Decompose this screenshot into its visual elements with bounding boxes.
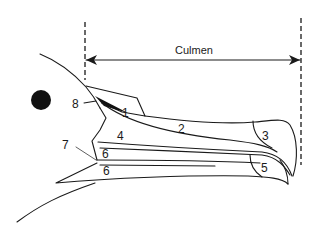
label-7: 7 xyxy=(62,138,69,152)
leader-8 xyxy=(84,101,96,103)
upper-bill-top xyxy=(145,116,296,176)
label-4: 4 xyxy=(117,129,124,143)
plate-6-upper-band xyxy=(97,160,260,163)
label-2: 2 xyxy=(178,122,185,136)
label-6-lower: 6 xyxy=(103,164,110,178)
label-3: 3 xyxy=(262,129,269,143)
label-6-upper: 6 xyxy=(102,147,109,161)
culmen-arrow xyxy=(86,55,300,65)
throat-outline xyxy=(17,183,95,222)
label-5: 5 xyxy=(261,161,268,175)
bill-diagram: Culmen 1 2 3 4 5 6 6 7 8 xyxy=(0,0,314,230)
label-8: 8 xyxy=(72,97,79,111)
eye-icon xyxy=(31,90,51,110)
mandible-groove xyxy=(100,165,215,166)
culmen-label: Culmen xyxy=(175,44,213,56)
label-1: 1 xyxy=(122,106,129,120)
leader-7 xyxy=(76,147,96,160)
